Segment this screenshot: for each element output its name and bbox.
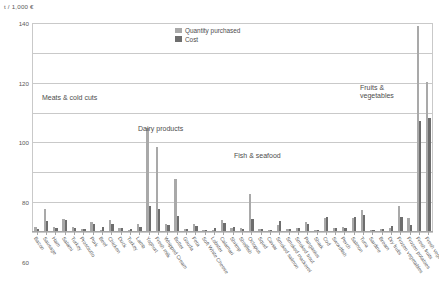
bar-cost [317, 230, 319, 231]
x-label-cell: Shark [312, 236, 321, 306]
bar-cost [344, 228, 346, 231]
bar-cost [270, 230, 272, 231]
x-tick [144, 232, 153, 235]
bar-group [331, 23, 340, 231]
bar-group [41, 23, 50, 231]
bar-group [358, 23, 367, 231]
bar-cost [428, 118, 430, 231]
bar-cost [167, 225, 169, 231]
bar-group [237, 23, 246, 231]
bar-cost [93, 224, 95, 231]
bar-cost [55, 228, 57, 231]
bar-group [312, 23, 321, 231]
x-label-cell: Sausage [41, 236, 50, 306]
bar-group [69, 23, 78, 231]
x-label-cell: Lobster [209, 236, 218, 306]
x-label-cell: Beef [97, 236, 106, 306]
bar-cost [410, 225, 412, 231]
bar-group [219, 23, 228, 231]
x-label-cell: Octopus [247, 236, 256, 306]
bar-cost [83, 229, 85, 231]
bar-series-group [32, 23, 433, 231]
bar-cost [223, 223, 225, 231]
bar-group [377, 23, 386, 231]
x-label-cell: Fresh vegetables [424, 236, 433, 306]
x-label-cell: Fresh milk [153, 236, 162, 306]
x-label-cell: Bream [377, 236, 386, 306]
bar-group [414, 23, 423, 231]
bar-group [247, 23, 256, 231]
x-label-cell: Smoked salmon [275, 236, 284, 306]
x-tick [172, 232, 181, 235]
bar-cost [382, 229, 384, 231]
bar-group [396, 23, 405, 231]
bar-group [275, 23, 284, 231]
x-label-cell: Turkey [125, 236, 134, 306]
group-label-line: Fruits & [360, 84, 394, 92]
bar-cost [279, 221, 281, 231]
bar-group [340, 23, 349, 231]
bar-group [265, 23, 274, 231]
bar-cost [298, 228, 300, 231]
x-label-cell: Squid [256, 236, 265, 306]
x-label-cell: Prosciutto [79, 236, 88, 306]
bar-cost [400, 217, 402, 231]
bar-cost [121, 228, 123, 231]
bar-group [349, 23, 358, 231]
x-label-cell: Cod [321, 236, 330, 306]
x-label-cell: Fresh fruits [414, 236, 423, 306]
bar-group [228, 23, 237, 231]
group-label: Fruits &vegetables [360, 84, 394, 101]
x-label-cell: Shellfish [237, 236, 246, 306]
y-tick-label-60: 60 [22, 258, 29, 265]
x-label-cell: Lamb [135, 236, 144, 306]
bar-cost [233, 227, 235, 231]
bar-cost [391, 226, 393, 231]
x-tick [312, 232, 321, 235]
bar-cost [335, 228, 337, 231]
x-label-cell: Tuna [358, 236, 367, 306]
y-tick-label-120: 120 [19, 79, 29, 86]
bar-group [303, 23, 312, 231]
bar-group [256, 23, 265, 231]
x-label-cell: Swordfish [331, 236, 340, 306]
x-label-cell: Shrimp [228, 236, 237, 306]
y-tick-label-100: 100 [19, 139, 29, 146]
bar-group [51, 23, 60, 231]
bar-cost [251, 219, 253, 231]
x-label-cell: Yoghurt [144, 236, 153, 306]
x-label-cell: Ham [51, 236, 60, 306]
group-label: Dairy products [138, 125, 183, 133]
plot-area: 020406080100120140 [32, 23, 433, 232]
bar-group [88, 23, 97, 231]
bar-cost [354, 217, 356, 231]
bar-cost [261, 229, 263, 231]
x-label-cell: Sardine [368, 236, 377, 306]
x-tick [228, 232, 237, 235]
bar-group [191, 23, 200, 231]
bar-cost [158, 209, 160, 231]
x-label-cell: Frozen potatoes [405, 236, 414, 306]
group-label-line: vegetables [360, 92, 394, 100]
x-label-cell: Frozen vegetables [396, 236, 405, 306]
x-tick [284, 232, 293, 235]
bar-group [125, 23, 134, 231]
x-label-cell: Pork [88, 236, 97, 306]
bar-group [284, 23, 293, 231]
x-label-cell: Bacon [32, 236, 41, 306]
x-label-cell: Whipped Cream [163, 236, 172, 306]
bar-cost [419, 121, 421, 231]
x-label-cell: Dry fruits [386, 236, 395, 306]
group-label: Meats & cold cuts [42, 94, 97, 102]
bar-group [368, 23, 377, 231]
bar-cost [372, 230, 374, 231]
x-label-cell: Gouda [181, 236, 190, 306]
bar-group [116, 23, 125, 231]
x-label-cell: Salami [60, 236, 69, 306]
x-label-cell: Duck [116, 236, 125, 306]
bar-cost [363, 215, 365, 231]
x-label-cell: Smoked mackerel [284, 236, 293, 306]
x-label-cell: Turkey [69, 236, 78, 306]
chart-container: t / 1,000 € Quantity purchased Cost 0204… [0, 0, 439, 306]
bar-group [97, 23, 106, 231]
